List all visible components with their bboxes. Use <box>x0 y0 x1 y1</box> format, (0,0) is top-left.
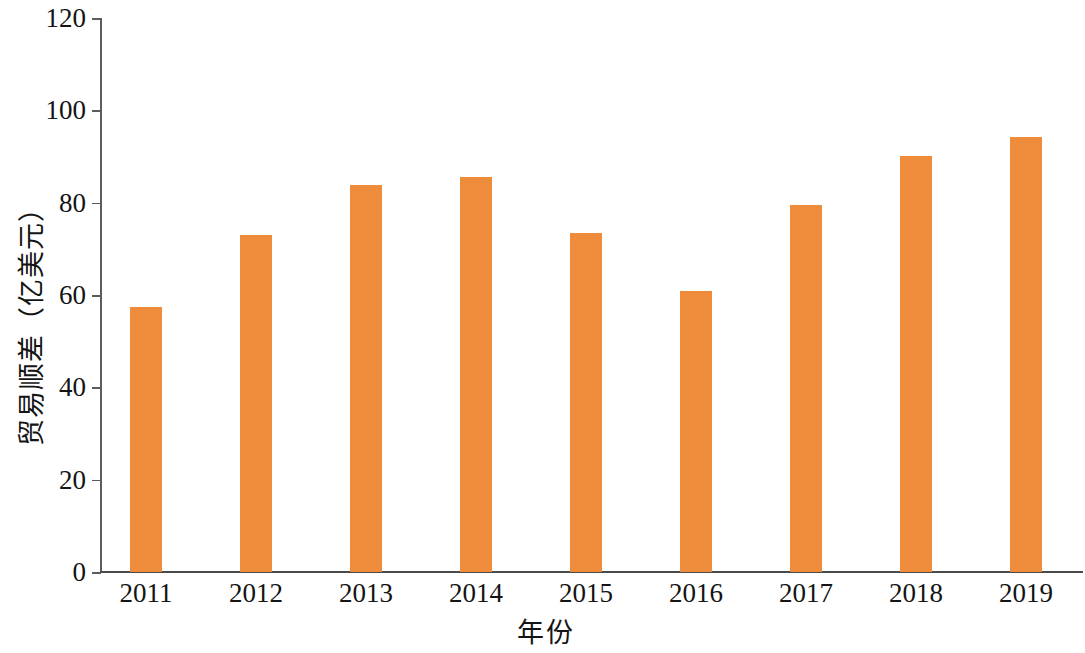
y-axis-tick-mark <box>92 18 101 20</box>
bar <box>240 235 272 572</box>
y-axis-tick-label: 20 <box>26 467 86 494</box>
bar <box>350 185 382 572</box>
y-axis-tick-mark <box>92 110 101 112</box>
bar <box>130 307 162 572</box>
y-axis-tick-mark <box>92 572 101 574</box>
bar <box>460 177 492 572</box>
y-axis-tick-label: 120 <box>26 5 86 32</box>
y-axis-tick-label: 40 <box>26 374 86 401</box>
bar <box>680 291 712 572</box>
y-axis-tick-label: 0 <box>26 559 86 586</box>
y-axis-tick-label: 100 <box>26 97 86 124</box>
x-axis-title: 年份 <box>0 620 1085 647</box>
y-axis-tick-mark <box>92 203 101 205</box>
x-axis-tick-label: 2017 <box>746 580 866 607</box>
y-axis-tick-mark <box>92 295 101 297</box>
x-axis-tick-label: 2019 <box>966 580 1085 607</box>
x-axis-tick-label: 2018 <box>856 580 976 607</box>
x-axis-tick-label: 2011 <box>86 580 206 607</box>
bars-layer <box>100 18 1083 572</box>
x-axis-tick-label: 2015 <box>526 580 646 607</box>
y-axis-tick-mark <box>92 480 101 482</box>
y-axis-tick-mark <box>92 387 101 389</box>
bar <box>1010 137 1042 572</box>
x-axis-tick-label: 2013 <box>306 580 426 607</box>
y-axis-tick-labels: 020406080100120 <box>22 0 86 653</box>
x-axis-title-text: 年份 <box>517 618 575 648</box>
bar <box>900 156 932 572</box>
y-axis-tick-label: 80 <box>26 190 86 217</box>
x-axis-tick-labels: 201120122013201420152016201720182019 <box>100 580 1083 616</box>
bar <box>790 205 822 572</box>
x-axis-tick-label: 2014 <box>416 580 536 607</box>
x-axis-tick-label: 2012 <box>196 580 316 607</box>
bar-chart: 贸易顺差（亿美元） 020406080100120 20112012201320… <box>0 0 1085 653</box>
y-axis-tick-label: 60 <box>26 282 86 309</box>
x-axis-tick-label: 2016 <box>636 580 756 607</box>
plot-area <box>100 18 1083 572</box>
bar <box>570 233 602 572</box>
